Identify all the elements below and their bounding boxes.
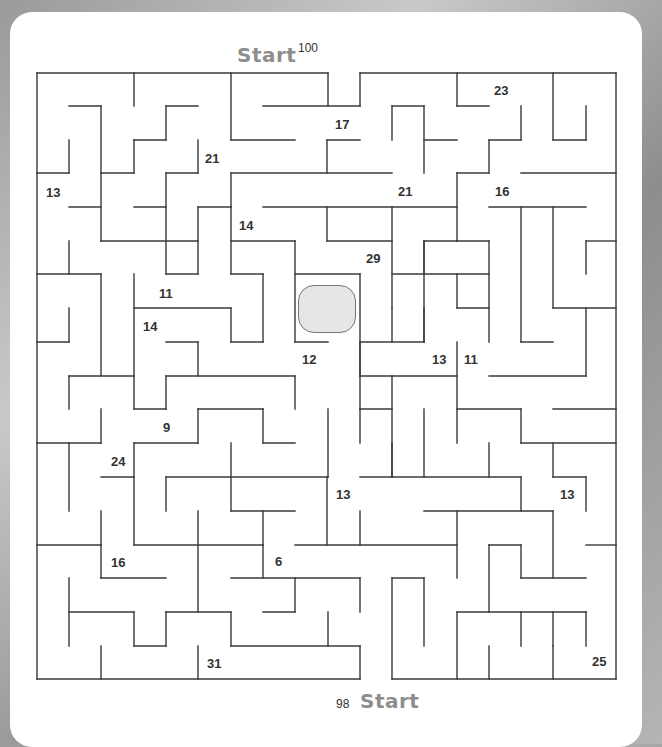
maze-number: 13	[46, 185, 60, 200]
maze-number: 16	[495, 184, 509, 199]
maze-number: 14	[143, 319, 157, 334]
maze-number: 13	[560, 487, 574, 502]
maze-number: 23	[494, 83, 508, 98]
maze-number: 6	[275, 554, 282, 569]
maze-number: 24	[111, 454, 125, 469]
maze-number: 11	[159, 286, 173, 301]
maze-number: 12	[302, 352, 316, 367]
maze-number: 31	[207, 656, 221, 671]
maze-number: 25	[592, 654, 606, 669]
maze-number: 9	[163, 420, 170, 435]
maze-number: 21	[398, 184, 412, 199]
maze-number: 16	[111, 555, 125, 570]
maze-number: 11	[464, 352, 478, 367]
start-bottom-label: Start	[360, 689, 419, 713]
start-bottom-number: 98	[336, 697, 349, 711]
start-top-label: Start	[237, 43, 296, 67]
goal-box[interactable]	[298, 285, 356, 333]
start-top-number: 100	[298, 41, 318, 55]
maze-number: 13	[432, 352, 446, 367]
maze-number: 29	[366, 251, 380, 266]
maze-number: 21	[205, 151, 219, 166]
maze-number: 17	[335, 117, 349, 132]
maze-number: 13	[336, 487, 350, 502]
maze-number: 14	[239, 218, 253, 233]
